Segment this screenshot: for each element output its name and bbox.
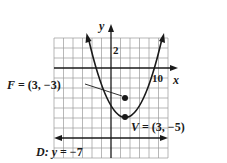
y-axis-arrow-icon — [108, 24, 114, 32]
vertex-label-value: = (3, −5) — [139, 120, 185, 134]
directrix-label-prefix: D: — [35, 145, 49, 159]
y-axis-label: y — [97, 19, 105, 33]
vertex-label: V = (3, −5) — [131, 120, 185, 134]
directrix-label-value: = −7 — [57, 145, 83, 159]
directrix-label: D: y = −7 — [35, 145, 83, 159]
focus-label: F = (3, −3) — [6, 78, 61, 92]
focus-leader-line — [85, 84, 122, 96]
directrix-left-arrow-icon — [54, 135, 62, 141]
focus-label-prefix: F — [6, 78, 15, 92]
directrix-right-arrow-icon — [160, 135, 168, 141]
focus-label-value: = (3, −3) — [15, 78, 61, 92]
parabola-graph: y x 2 10 F = (3, −3) V = (3, −5) D: y = … — [0, 0, 227, 163]
x-tick-label: 10 — [152, 72, 164, 84]
x-axis-arrow-icon — [170, 65, 178, 71]
y-tick-label: 2 — [113, 44, 119, 56]
x-axis-label: x — [172, 73, 179, 87]
vertex-point — [122, 114, 128, 120]
focus-point — [122, 95, 128, 101]
